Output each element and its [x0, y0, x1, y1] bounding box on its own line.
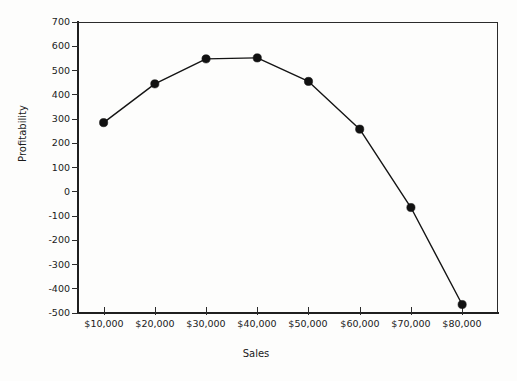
y-axis-tick [72, 167, 79, 168]
x-axis-tick [104, 307, 105, 315]
y-axis-tick-label: 700 [26, 17, 70, 27]
x-axis-title-text: Sales [243, 348, 270, 359]
x-axis-tick [411, 307, 412, 315]
y-axis-title: Profitability [17, 89, 28, 179]
x-axis-tick [308, 307, 309, 315]
y-axis-tick [72, 143, 79, 144]
x-axis-title: Sales [0, 348, 517, 359]
y-axis-tick [72, 22, 79, 23]
y-axis-tick [72, 264, 79, 265]
y-axis-tick [72, 288, 79, 289]
x-axis-tick-label: $80,000 [427, 318, 497, 330]
y-axis-tick-label: -200 [26, 235, 70, 245]
y-axis-tick [72, 94, 79, 95]
x-axis-tick [206, 307, 207, 315]
y-axis-tick-label: 500 [26, 66, 70, 76]
y-axis-tick [72, 216, 79, 217]
y-axis-tick [72, 119, 79, 120]
x-axis-spine [77, 312, 499, 314]
plot-area-frame [78, 22, 498, 313]
y-axis-tick-label: 600 [26, 41, 70, 51]
y-axis-tick-label: 300 [26, 114, 70, 124]
y-axis-tick [72, 46, 79, 47]
x-axis-tick [360, 307, 361, 315]
chart-screenshot: 7006005004003002001000-100-200-300-400-5… [0, 0, 517, 381]
y-axis-tick-label: 0 [26, 187, 70, 197]
y-axis-tick-label: -500 [26, 308, 70, 318]
y-axis-tick-label: 100 [26, 163, 70, 173]
y-axis-tick-label: -300 [26, 260, 70, 270]
cropped-title-remnant [205, 0, 315, 4]
y-axis-tick-labels: 7006005004003002001000-100-200-300-400-5… [18, 0, 70, 381]
x-axis-tick [155, 307, 156, 315]
y-axis-tick [72, 240, 79, 241]
y-axis-tick-label: -400 [26, 284, 70, 294]
y-axis-tick [72, 70, 79, 71]
x-axis-tick [257, 307, 258, 315]
y-axis-tick-label: 200 [26, 138, 70, 148]
x-axis-tick [462, 307, 463, 315]
y-axis-tick-label: 400 [26, 90, 70, 100]
y-axis-tick-label: -100 [26, 211, 70, 221]
y-axis-tick [72, 191, 79, 192]
y-axis-tick [72, 313, 79, 314]
